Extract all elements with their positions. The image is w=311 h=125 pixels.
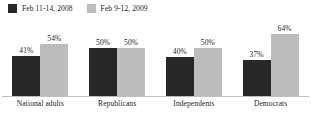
bar-rect [117,48,145,96]
category-label-1: Republicans [87,99,147,108]
bar-value-label: 37% [250,51,264,59]
legend-label-series-a: Feb 11-14, 2008 [22,4,73,13]
bar-series-b-2: 50% [194,18,222,96]
bar-value-label: 50% [124,39,138,47]
bar-series-b-3: 64% [271,18,299,96]
bar-group: 37% 64% [243,18,299,96]
bar-rect [12,56,40,95]
light-square-swatch-icon [87,4,96,13]
bar-value-label: 50% [96,39,110,47]
legend-item-series-b: Feb 9-12, 2009 [87,4,148,13]
dark-square-swatch-icon [8,4,17,13]
legend-item-series-a: Feb 11-14, 2008 [8,4,73,13]
plot-area: 41% 54% 50% 50% [0,18,311,97]
category-label-2: Independents [164,99,224,108]
bar-series-b-0: 54% [40,18,68,96]
bar-rect [243,60,271,95]
bar-value-label: 54% [47,35,61,43]
bar-series-a-1: 50% [89,18,117,96]
chart-legend: Feb 11-14, 2008 Feb 9-12, 2009 [8,2,148,14]
axis-baseline [2,96,309,98]
category-label-0: National adults [10,99,70,108]
bar-series-a-2: 40% [166,18,194,96]
bar-groups: 41% 54% 50% 50% [2,18,309,96]
bar-value-label: 50% [201,39,215,47]
bar-rect [166,57,194,95]
bar-rect [40,44,68,96]
bar-series-b-1: 50% [117,18,145,96]
category-axis: National adults Republicans Independents… [2,99,309,113]
bar-series-a-0: 41% [12,18,40,96]
legend-label-series-b: Feb 9-12, 2009 [101,4,148,13]
bar-rect [271,34,299,95]
grouped-bar-chart: Feb 11-14, 2008 Feb 9-12, 2009 41% 54% 5 [0,0,311,125]
category-label-3: Democrats [241,99,301,108]
bar-value-label: 64% [278,25,292,33]
bar-value-label: 41% [19,47,33,55]
bar-series-a-3: 37% [243,18,271,96]
bar-rect [194,48,222,96]
bar-group: 41% 54% [12,18,68,96]
bar-rect [89,48,117,96]
bar-group: 40% 50% [166,18,222,96]
bar-group: 50% 50% [89,18,145,96]
bar-value-label: 40% [173,48,187,56]
